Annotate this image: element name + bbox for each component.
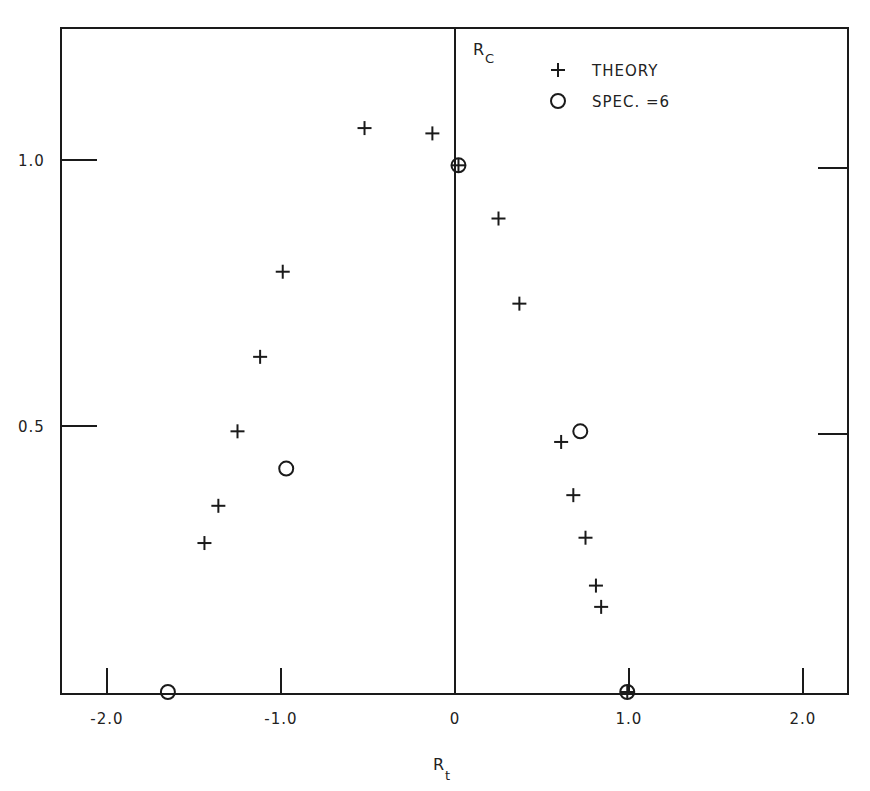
theory-point xyxy=(554,435,568,449)
theory-point xyxy=(197,536,211,550)
theory-point xyxy=(566,488,580,502)
theory-point xyxy=(231,424,245,438)
axis-tick-labels: -2.0-1.001.02.00.51.0 xyxy=(18,152,816,728)
spec-point-circle-icon xyxy=(573,424,587,438)
theory-point xyxy=(276,265,290,279)
theory-point xyxy=(512,297,526,311)
theory-point xyxy=(211,499,225,513)
legend-item-theory: THEORY xyxy=(551,62,658,80)
theory-point xyxy=(594,600,608,614)
legend-label-spec: SPEC. =6 xyxy=(592,93,670,111)
theory-point xyxy=(358,121,372,135)
legend-label-theory: THEORY xyxy=(591,62,658,80)
y-axis-label-sub: C xyxy=(485,51,494,66)
y-tick-label: 1.0 xyxy=(18,152,45,170)
spec-point-circle-icon xyxy=(161,685,175,699)
x-tick-label: -1.0 xyxy=(264,710,297,728)
y-axis-label: R C xyxy=(473,40,494,66)
spec-point-circle-icon xyxy=(279,462,293,476)
theory-point xyxy=(579,531,593,545)
theory-point xyxy=(425,126,439,140)
x-tick-label: 0 xyxy=(450,710,461,728)
legend-item-spec: SPEC. =6 xyxy=(551,93,670,111)
circle-marker-icon xyxy=(551,94,565,108)
x-tick-label: -2.0 xyxy=(90,710,123,728)
x-axis-label-main: R xyxy=(433,755,444,774)
x-axis-label: R t xyxy=(433,755,450,783)
y-axis-label-main: R xyxy=(473,40,484,59)
plot-frame xyxy=(61,28,848,694)
y-tick-label: 0.5 xyxy=(18,418,45,436)
x-tick-label: 2.0 xyxy=(790,710,817,728)
data-markers xyxy=(161,121,634,699)
legend: THEORY SPEC. =6 xyxy=(551,62,670,111)
x-tick-label: 1.0 xyxy=(616,710,643,728)
theory-point xyxy=(589,579,603,593)
scatter-chart: -2.0-1.001.02.00.51.0 R C R t THEORY SPE… xyxy=(0,0,870,791)
theory-point xyxy=(492,212,506,226)
theory-point xyxy=(253,350,267,364)
plus-marker-icon xyxy=(551,63,565,77)
x-axis-label-sub: t xyxy=(445,768,450,783)
